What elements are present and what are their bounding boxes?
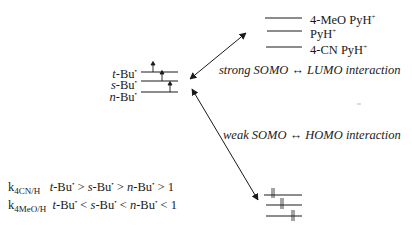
label-4-cn-pyh: 4-CN PyH+ — [310, 40, 367, 57]
weak-interaction-arrow — [192, 89, 258, 200]
rate-relation-4meo: k4MeO/H t-Bu• < s-Bu• < n-Bu• < 1 — [8, 195, 177, 216]
label-n-butyl: n-Bu• — [110, 87, 137, 104]
lumo-levels — [265, 18, 302, 47]
strong-interaction-caption: strong SOMO ↔ LUMO interaction — [219, 63, 400, 77]
weak-interaction-caption: weak SOMO ↔ HOMO interaction — [223, 128, 401, 142]
electron-up-icons — [151, 62, 172, 93]
somo-levels — [141, 72, 178, 92]
label-pyh: PyH+ — [310, 24, 336, 41]
